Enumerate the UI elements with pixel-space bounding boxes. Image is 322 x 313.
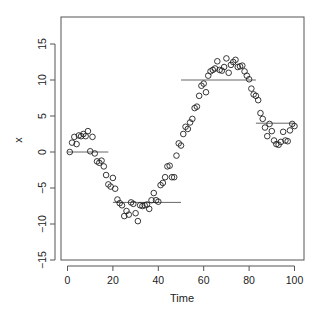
data-point [287,128,293,134]
y-tick-label: −5 [36,182,48,194]
data-point [112,186,118,192]
x-axis-title: Time [170,292,194,304]
y-axis: −15−10−5051015 [36,38,55,269]
x-tick-label: 0 [65,274,71,286]
x-tick-label: 100 [286,274,304,286]
y-tick-label: 5 [36,113,48,119]
y-tick-label: 0 [36,149,48,155]
y-axis-title: x [12,137,24,143]
data-point [133,210,139,216]
y-tick-label: 15 [36,38,48,50]
data-point [226,70,232,76]
data-point [101,164,107,170]
data-point [174,153,180,159]
data-point [180,131,186,137]
x-tick-label: 80 [243,274,255,286]
data-point [264,133,270,139]
data-point [103,172,109,178]
data-point [249,86,255,92]
data-point [255,97,261,103]
data-point [162,174,168,180]
data-point [267,121,273,127]
data-point [110,175,116,181]
x-tick-label: 40 [152,274,164,286]
data-point [135,218,141,224]
x-tick-label: 60 [198,274,210,286]
data-point [85,128,91,134]
y-tick-label: −10 [36,215,48,233]
data-point [146,206,152,212]
data-point [90,134,96,140]
data-point [151,190,157,196]
data-point [280,129,286,135]
x-axis: 020406080100 [65,266,304,286]
data-point [260,116,266,122]
data-point [215,58,221,64]
data-point [196,93,202,99]
data-point [224,56,230,62]
x-tick-label: 20 [107,274,119,286]
data-point [203,89,209,95]
data-point [92,151,98,157]
y-tick-label: −15 [36,251,48,269]
scatter-chart: 020406080100 −15−10−5051015 Time x [0,0,322,313]
y-tick-label: 10 [36,74,48,86]
data-points [67,56,297,224]
data-point [269,128,275,134]
data-point [258,110,264,116]
